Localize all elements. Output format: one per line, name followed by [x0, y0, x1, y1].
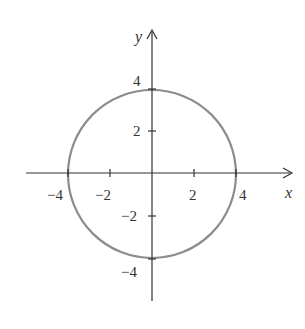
- y-tick-label: −2: [121, 208, 137, 224]
- x-tick-label: −4: [47, 187, 63, 203]
- y-axis: [147, 30, 157, 301]
- x-axis-label: x: [284, 184, 292, 201]
- x-tick-label: 4: [239, 187, 247, 203]
- y-tick-label: −4: [121, 264, 137, 280]
- y-tick-label: 2: [133, 123, 141, 139]
- x-axis: [26, 168, 292, 178]
- y-axis-label: y: [133, 28, 143, 46]
- x-tick-label: 2: [189, 187, 197, 203]
- x-tick-label: −2: [95, 187, 111, 203]
- circle-graph: y x −4 −2 2 4 4 2 −2 −4: [0, 0, 305, 329]
- y-tick-label: 4: [133, 73, 141, 89]
